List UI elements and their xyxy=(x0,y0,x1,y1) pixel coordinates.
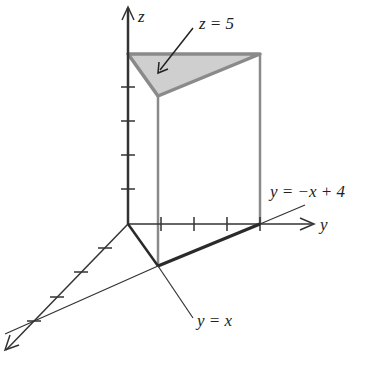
z-axis-label: z xyxy=(137,7,145,26)
prism-diagram: z y z = 5 y = −x + 4 y = x xyxy=(0,0,365,371)
line-y-equals-neg-x-plus-4-extension-right xyxy=(260,205,305,224)
base-edge-y-equals-neg-x-plus-4 xyxy=(158,224,260,266)
top-face-label: z = 5 xyxy=(198,14,234,33)
x-axis-arrow-icon xyxy=(5,335,19,350)
y-axis-label: y xyxy=(318,215,328,234)
line-y-equals-neg-x-plus-4-extension-left xyxy=(5,266,158,334)
top-face-triangle xyxy=(128,54,260,96)
line-y-equals-x-extension xyxy=(158,266,193,318)
line-label-y-neg-x-plus-4: y = −x + 4 xyxy=(268,182,346,201)
line-label-y-equals-x: y = x xyxy=(195,311,233,330)
base-edge-y-equals-x xyxy=(128,224,158,266)
